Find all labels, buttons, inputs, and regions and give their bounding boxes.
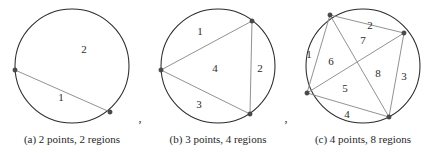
vertex-point-panel-a-2	[108, 110, 112, 114]
vertex-point-panel-c-2	[402, 31, 406, 35]
vertex-point-panel-c-3	[387, 115, 391, 119]
panel-caption-panel-a: (a) 2 points, 2 regions	[24, 133, 120, 146]
circle-regions-figure: 12(a) 2 points, 2 regions1234(b) 3 point…	[0, 0, 433, 153]
region-label-panel-b-3: 3	[196, 98, 202, 110]
region-label-panel-c-5: 5	[342, 82, 348, 94]
figure-panel-panel-c: 12345678(c) 4 points, 8 regions	[305, 9, 420, 146]
region-label-panel-c-4: 4	[344, 108, 350, 120]
panel-caption-panel-c: (c) 4 points, 8 regions	[315, 133, 411, 146]
vertex-point-panel-a-1	[13, 68, 17, 72]
region-label-panel-c-3: 3	[401, 70, 407, 82]
region-label-panel-b-4: 4	[212, 62, 218, 74]
region-label-panel-b-1: 1	[197, 25, 203, 37]
region-label-panel-c-2: 2	[367, 19, 373, 31]
region-label-panel-c-7: 7	[360, 34, 366, 46]
region-label-panel-b-2: 2	[257, 62, 263, 74]
separator-comma-2: ,	[285, 111, 288, 125]
region-label-panel-a-2: 2	[81, 43, 87, 55]
region-label-panel-c-6: 6	[328, 55, 334, 67]
vertex-point-panel-b-3	[248, 112, 252, 116]
region-label-panel-a-1: 1	[58, 91, 64, 103]
vertex-point-panel-c-1	[328, 13, 332, 17]
vertex-point-panel-b-1	[159, 68, 163, 72]
region-label-panel-c-1: 1	[306, 48, 312, 60]
figure-canvas: 12(a) 2 points, 2 regions1234(b) 3 point…	[0, 0, 433, 153]
panel-caption-panel-b: (b) 3 points, 4 regions	[170, 133, 267, 146]
separator-comma-1: ,	[139, 111, 142, 125]
vertex-point-panel-b-2	[250, 19, 254, 23]
figure-panel-panel-a: 12(a) 2 points, 2 regions	[13, 9, 129, 146]
vertex-point-panel-c-4	[305, 91, 309, 95]
figure-panel-panel-b: 1234(b) 3 points, 4 regions	[159, 9, 275, 146]
circle-outline-panel-c	[306, 9, 420, 123]
region-label-panel-c-8: 8	[375, 67, 381, 79]
circle-outline-panel-a	[15, 9, 129, 123]
panels-group: 12(a) 2 points, 2 regions1234(b) 3 point…	[13, 9, 420, 146]
